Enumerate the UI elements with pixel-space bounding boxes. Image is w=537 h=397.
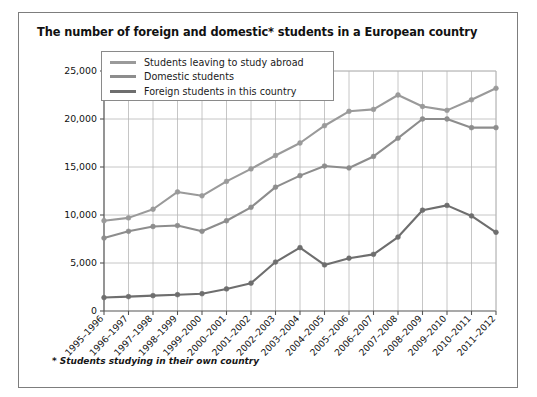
data-point	[175, 292, 180, 297]
data-point	[420, 208, 425, 213]
data-point	[126, 294, 131, 299]
data-point	[175, 223, 180, 228]
data-point	[224, 287, 229, 292]
data-point	[126, 215, 131, 220]
y-axis-tick-label: 15,000	[64, 161, 97, 172]
data-point	[200, 229, 205, 234]
legend-label: Foreign students in this country	[144, 86, 296, 97]
data-point	[151, 224, 156, 229]
data-point	[273, 185, 278, 190]
data-point	[298, 173, 303, 178]
data-point	[469, 97, 474, 102]
x-axis-tick-labels: 1995–19961996–19971997–19981998–19991999…	[62, 313, 497, 358]
data-point	[249, 281, 254, 286]
gridlines	[104, 71, 496, 311]
data-point	[175, 190, 180, 195]
data-point	[494, 86, 499, 91]
data-point	[151, 207, 156, 212]
data-point	[102, 295, 107, 300]
data-point	[322, 263, 327, 268]
data-point	[347, 109, 352, 114]
data-point	[273, 153, 278, 158]
footnote-text: Students studying in their own country	[60, 356, 259, 366]
data-point	[126, 229, 131, 234]
data-point	[347, 256, 352, 261]
y-axis-tick-label: 25,000	[64, 65, 97, 76]
data-point	[322, 123, 327, 128]
data-point	[347, 166, 352, 171]
chart-legend: Students leaving to study abroad Domesti…	[101, 51, 334, 101]
data-point	[249, 205, 254, 210]
data-point	[298, 245, 303, 250]
data-point	[371, 154, 376, 159]
data-point	[102, 236, 107, 241]
data-point	[224, 179, 229, 184]
y-axis-tick-label: 5,000	[70, 257, 97, 268]
data-point	[469, 214, 474, 219]
data-point	[445, 108, 450, 113]
data-point	[396, 235, 401, 240]
data-point	[322, 164, 327, 169]
legend-item: Foreign students in this country	[107, 84, 333, 99]
y-axis-tick-label: 10,000	[64, 209, 97, 220]
data-point	[371, 252, 376, 257]
legend-swatch-foreign-students-in-this-country	[110, 90, 136, 93]
data-point	[494, 125, 499, 130]
data-point	[298, 141, 303, 146]
legend-label: Domestic students	[144, 71, 234, 82]
data-point	[445, 203, 450, 208]
data-point	[151, 293, 156, 298]
y-axis-tick-labels: 05,00010,00015,00020,00025,000	[64, 65, 104, 316]
legend-item: Students leaving to study abroad	[107, 55, 333, 70]
data-point	[396, 93, 401, 98]
data-point	[420, 104, 425, 109]
figure-frame: The number of foreign and domestic* stud…	[18, 12, 518, 388]
data-point	[396, 136, 401, 141]
y-axis-tick-label: 20,000	[64, 113, 97, 124]
data-point	[273, 260, 278, 265]
data-point	[224, 218, 229, 223]
legend-swatch-students-leaving-to-study-abroad	[110, 61, 136, 64]
data-point	[200, 193, 205, 198]
legend-item: Domestic students	[107, 70, 333, 85]
x-axis-ticks	[104, 311, 496, 315]
footnote: *Students studying in their own country	[52, 356, 259, 366]
data-point	[371, 107, 376, 112]
data-point	[469, 125, 474, 130]
data-point	[102, 218, 107, 223]
clipped-header-text	[0, 0, 537, 11]
data-point	[445, 117, 450, 122]
data-point	[494, 230, 499, 235]
footnote-marker: *	[52, 356, 57, 366]
data-point	[200, 291, 205, 296]
legend-swatch-domestic-students	[110, 75, 136, 78]
data-point	[249, 167, 254, 172]
data-point	[420, 117, 425, 122]
legend-label: Students leaving to study abroad	[144, 57, 304, 68]
